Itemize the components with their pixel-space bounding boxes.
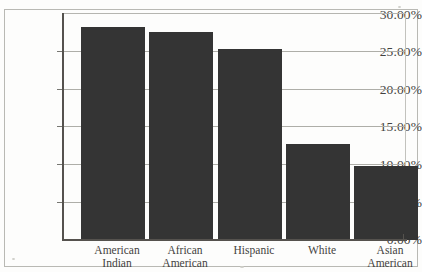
x-tick-label-american-indian: American Indian: [81, 244, 153, 269]
y-axis: [62, 13, 64, 241]
bars-container: [62, 14, 405, 240]
x-label-line-1: American: [81, 244, 153, 257]
x-label-line-1: African: [149, 244, 221, 257]
x-label-line-1: Hispanic: [218, 244, 290, 257]
x-tick-label-white: White: [286, 244, 358, 257]
x-label-line-2: American: [354, 257, 426, 270]
x-tick-label-asian-american: Asian American: [354, 244, 426, 269]
x-tick-label-african-american: African American: [149, 244, 221, 269]
x-label-line-2: Indian: [81, 257, 153, 270]
bar-white: [286, 144, 350, 240]
x-axis: [62, 239, 407, 241]
x-axis-end-tick: [403, 234, 406, 241]
bar-hispanic: [218, 49, 282, 240]
x-label-line-1: Asian: [354, 244, 426, 257]
bar-african-american: [149, 32, 213, 240]
x-label-line-1: White: [286, 244, 358, 257]
bar-american-indian: [81, 27, 145, 240]
x-label-line-2: American: [149, 257, 221, 270]
x-tick-label-hispanic: Hispanic: [218, 244, 290, 257]
bar-asian-american: [354, 166, 418, 240]
